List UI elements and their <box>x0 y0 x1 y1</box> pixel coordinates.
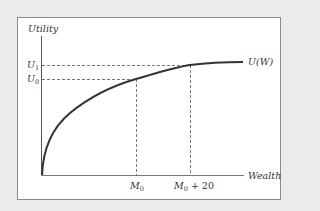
m0-tick-label: M0 <box>130 181 144 193</box>
m0-plus-20-tick-label: M0 + 20 <box>174 181 214 193</box>
u0-tick-label: U0 <box>27 74 39 86</box>
utility-curve <box>42 62 243 175</box>
x-axis-label: Wealth <box>248 171 281 181</box>
y-axis-label: Utility <box>28 24 58 34</box>
u1-tick-label: U1 <box>27 60 39 72</box>
curve-label: U(W) <box>248 57 273 67</box>
